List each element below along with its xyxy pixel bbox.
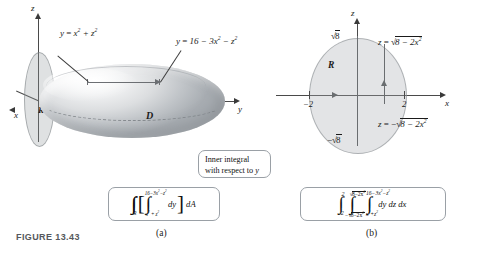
x-direction-arrow	[332, 92, 338, 98]
callout-line-2-prefix: with respect to	[205, 166, 255, 175]
callout-line-2-var: y	[255, 166, 259, 175]
y-axis-label-a: y	[238, 104, 242, 114]
slice-line-right	[384, 44, 385, 104]
panel-b-2d-region: z x R −2 2 √8 −√8 z = √8 − 2x2	[252, 0, 496, 145]
integral-b-x-lower: −2	[337, 211, 344, 216]
solid-d-label: D	[146, 110, 153, 121]
integral-a-outer-diff: dA	[186, 199, 196, 209]
integral-b-expr: ∫ 2 −2 ∫ √8−2x2 −√8−2x2 ∫ 16−3x2−z2 x2+z…	[339, 195, 408, 212]
x-axis-label-a: x	[14, 110, 18, 120]
curve-lower-lhs: z	[378, 119, 382, 129]
tick-label-sqrt8-bottom: −√8	[327, 134, 342, 145]
integral-a-inner-upper: 16−3x2−z2	[145, 191, 167, 196]
figure-13-43: z y x R D y = x2 + z2 y =	[0, 0, 496, 255]
z-axis-arrow-b	[354, 18, 360, 24]
callout-line-1: Inner integral	[205, 155, 264, 166]
curve-upper-label: z = √8 − 2x2	[378, 36, 422, 47]
integral-b-z-lower: −√8−2x2	[345, 212, 365, 218]
curve-upper-eq: =	[384, 37, 389, 47]
tick-label-sqrt8-top: √8	[331, 30, 340, 41]
z-axis-label-b: z	[351, 8, 355, 18]
tick-label-minus-2: −2	[303, 99, 313, 109]
curve-upper-rhs: √8 − 2x2	[391, 36, 422, 47]
curve-lower-rhs: √8 − 2x2	[396, 118, 427, 129]
integral-a-inner-lower: x2 + z2	[146, 212, 159, 217]
solid-d-upper-ridge	[46, 66, 206, 107]
integral-a-expr: ∫∫ R [ ∫ 16−3x2−z2 x2 + z2 dy ] dA	[131, 195, 196, 213]
curve-upper-lhs: z	[378, 37, 382, 47]
curve-lower-label: z = −√8 − 2x2	[378, 118, 428, 129]
slice-line-center	[357, 36, 358, 146]
x-axis-label-b: x	[445, 98, 449, 108]
surface-lower-lhs: y	[60, 28, 64, 38]
surface-upper-rhs: 16 − 3x2 − z2	[190, 36, 238, 46]
z-axis-arrow-a	[35, 13, 41, 19]
integral-expression-b: ∫ 2 −2 ∫ √8−2x2 −√8−2x2 ∫ 16−3x2−z2 x2+z…	[300, 187, 446, 221]
tick-plus-2	[404, 91, 405, 99]
integral-expression-a: ∫∫ R [ ∫ 16−3x2−z2 x2 + z2 dy ] dA	[108, 187, 220, 221]
inner-segment-a	[88, 82, 160, 83]
integral-a-outer-sub: R	[133, 211, 136, 216]
region-r-label-b: R	[328, 60, 334, 70]
x-axis-arrow-b	[440, 92, 446, 98]
inner-integral-glyph-a: ∫ 16−3x2−z2 x2 + z2	[146, 195, 151, 212]
surface-upper-label: y = 16 − 3x2 − z2	[176, 36, 237, 46]
sqrt-glyph-bottom: √8	[332, 134, 341, 145]
callout-line-2: with respect to y	[205, 166, 264, 177]
integral-b-y-glyph: ∫ 16−3x2−z2 x2+z2	[367, 195, 372, 212]
tick-minus-2	[309, 91, 310, 99]
region-r-ellipse	[309, 38, 407, 154]
slice-direction-arrow	[381, 80, 387, 86]
sub-label-a: (a)	[156, 228, 167, 238]
integral-b-diffs: dy dz dx	[378, 199, 406, 209]
surface-lower-label: y = x2 + z2	[60, 28, 97, 38]
surface-upper-eq: =	[182, 36, 187, 46]
sqrt-glyph-top: √8	[331, 30, 340, 41]
surface-lower-eq: =	[66, 28, 71, 38]
figure-caption: FIGURE 13.43	[16, 232, 80, 242]
integral-b-z-upper: √8−2x2	[350, 191, 366, 197]
bracket-close-a: ]	[177, 195, 184, 213]
surface-upper-lhs: y	[176, 36, 180, 46]
curve-lower-eq: =	[384, 119, 389, 129]
integral-b-x-glyph: ∫ 2 −2	[339, 195, 344, 212]
double-integral-glyph-a: ∫∫ R	[131, 195, 136, 212]
inner-integral-callout: Inner integral with respect to y	[198, 150, 271, 178]
sub-label-b: (b)	[366, 228, 377, 238]
integral-b-y-lower: x2+z2	[366, 212, 378, 217]
integral-a-inner-diff: dy	[168, 199, 176, 209]
integral-b-x-upper: 2	[342, 192, 345, 197]
integral-b-y-upper: 16−3x2−z2	[366, 191, 390, 196]
z-axis-label-a: z	[31, 3, 35, 13]
integral-b-z-glyph: ∫ √8−2x2 −√8−2x2	[350, 195, 355, 212]
surface-lower-rhs: x2 + z2	[74, 28, 98, 38]
tick-label-plus-2: 2	[402, 99, 406, 109]
bracket-open-a: [	[138, 195, 145, 213]
y-axis-arrow-a	[234, 98, 240, 104]
panel-a-3d-solid: z y x R D y = x2 + z2 y =	[0, 0, 250, 145]
